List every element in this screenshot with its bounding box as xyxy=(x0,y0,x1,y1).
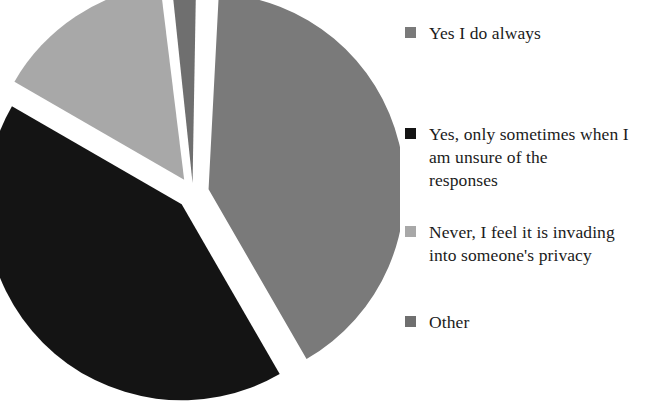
legend-swatch-yes-only-sometimes xyxy=(405,128,416,139)
legend-swatch-other xyxy=(405,316,416,327)
legend-label-yes-i-do-always: Yes I do always xyxy=(429,22,541,45)
pie-plot-area xyxy=(0,0,400,406)
legend-label-never-invading-privacy: Never, I feel it is invading into someon… xyxy=(429,221,615,267)
legend-item-yes-i-do-always[interactable]: Yes I do always xyxy=(405,22,672,45)
legend-label-yes-only-sometimes: Yes, only sometimes when I am unsure of … xyxy=(429,123,629,192)
legend-swatch-yes-i-do-always xyxy=(405,27,416,38)
legend-item-never-invading-privacy[interactable]: Never, I feel it is invading into someon… xyxy=(405,221,672,267)
legend-item-yes-only-sometimes[interactable]: Yes, only sometimes when I am unsure of … xyxy=(405,123,672,192)
legend-label-other: Other xyxy=(429,311,469,334)
chart-legend: Yes I do always Yes, only sometimes when… xyxy=(400,0,672,406)
legend-swatch-never-invading-privacy xyxy=(405,226,416,237)
pie-chart-svg xyxy=(0,0,400,406)
legend-item-other[interactable]: Other xyxy=(405,311,672,334)
pie-chart-figure: Yes I do always Yes, only sometimes when… xyxy=(0,0,672,406)
